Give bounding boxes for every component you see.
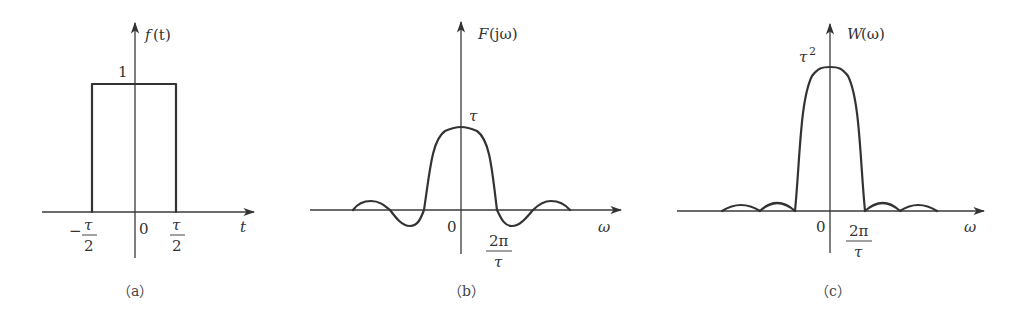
plot-b-frac-num: 2π [489,232,509,250]
figure-canvas: f (t) 1 t 0 − τ 2 τ 2 （a） F (jω) τ 0 ω 2… [0,0,1011,318]
plot-c-peak-tau: τ [799,48,808,66]
plot-a-ylabel-f: f [144,26,153,44]
plot-c-energy-spectrum: W (ω) τ 2 0 ω 2π τ （c） [677,24,984,299]
plot-c-frac-den: τ [854,243,863,261]
plot-a-origin: 0 [139,220,149,238]
plot-b-caption: （b） [448,283,485,299]
plot-a-neg-two: 2 [84,237,94,255]
plot-b-origin: 0 [447,218,457,236]
plot-a-xlabel: t [240,218,247,236]
plot-a-pos-tau: τ [172,216,181,234]
plot-a-rect-pulse: f (t) 1 t 0 − τ 2 τ 2 （a） [42,23,254,299]
plot-b-ylabel-F: F [477,25,489,43]
plot-c-ylabel-rest: (ω) [861,25,885,43]
plot-b-spectrum: F (jω) τ 0 ω 2π τ （b） [310,22,621,299]
plot-b-frac-den: τ [494,253,503,271]
plot-b-ylabel-rest: (jω) [489,25,518,43]
plot-c-origin: 0 [816,218,826,236]
plot-c-frac-num: 2π [849,222,869,240]
plot-b-xlabel: ω [598,218,610,236]
plot-c-peak-sup: 2 [809,45,816,58]
plot-a-neg-tau: τ [84,216,93,234]
plot-c-xlabel: ω [964,218,976,236]
plot-b-peak-label: τ [469,107,478,125]
plot-a-minus-sign: − [69,222,82,240]
plot-a-caption: （a） [117,283,153,299]
plot-a-pos-two: 2 [172,237,182,255]
plot-a-level-label: 1 [118,63,128,81]
plot-a-pulse-curve [92,84,176,212]
plot-c-caption: （c） [815,283,851,299]
plot-a-ylabel-t: (t) [153,26,171,44]
